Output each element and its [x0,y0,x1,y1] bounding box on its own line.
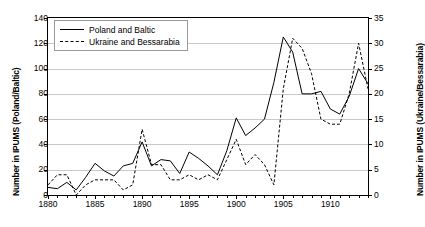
tick-mark [330,196,331,199]
tick-mark [340,196,341,198]
tick-mark [349,196,350,198]
x-axis-tick-label: 1910 [310,199,350,209]
tick-mark [236,196,237,199]
tick-mark [180,196,181,198]
tick-mark [368,196,369,198]
x-axis-tick-label: 1880 [28,199,68,209]
legend-label: Poland and Baltic [89,25,155,35]
tick-mark [152,196,153,198]
tick-mark [283,196,284,199]
tick-mark [369,195,372,196]
legend: Poland and Baltic Ukraine and Bessarabia [54,20,188,51]
tick-mark [321,196,322,198]
tick-mark [95,196,96,199]
series-dashed [48,38,368,195]
tick-mark [369,144,372,145]
tick-mark [302,196,303,198]
tick-mark [312,196,313,198]
y-axis-right-tick-label: 5 [374,164,398,174]
legend-swatch-dashed-icon [60,38,84,46]
tick-mark [133,196,134,198]
y-axis-right-tick-label: 20 [374,88,398,98]
tick-mark [369,94,372,95]
tick-mark [104,196,105,198]
tick-mark [293,196,294,198]
tick-mark [369,43,372,44]
tick-mark [359,196,360,198]
tick-mark [274,196,275,198]
tick-mark [189,196,190,199]
tick-mark [67,196,68,198]
y-axis-right-tick-label: 0 [374,190,398,200]
tick-mark [161,196,162,198]
tick-mark [142,196,143,199]
tick-mark [208,196,209,198]
x-axis-tick-label: 1905 [263,199,303,209]
legend-swatch-solid-icon [60,26,84,34]
x-axis-tick-label: 1890 [122,199,162,209]
tick-mark [48,196,49,199]
y-axis-right-tick-label: 35 [374,13,398,23]
tick-mark [76,196,77,198]
y-axis-right-tick-label: 10 [374,139,398,149]
tick-mark [369,69,372,70]
y-axis-right-tick-label: 30 [374,38,398,48]
tick-mark [255,196,256,198]
x-axis-tick-label: 1895 [169,199,209,209]
tick-mark [199,196,200,198]
tick-mark [123,196,124,198]
tick-mark [217,196,218,198]
tick-mark [369,170,372,171]
tick-mark [264,196,265,198]
y-axis-right-tick-label: 15 [374,114,398,124]
tick-mark [227,196,228,198]
x-axis-tick-label: 1885 [75,199,115,209]
y-axis-right-title: Number in IPUMS (Ukraine/Bessarabia) [415,43,425,196]
legend-item-ukraine-bessarabia: Ukraine and Bessarabia [60,36,182,48]
legend-label: Ukraine and Bessarabia [89,37,180,47]
y-axis-right-tick-label: 25 [374,63,398,73]
y-axis-left-title: Number in IPUMS (Poland/Baltic) [11,67,21,196]
x-axis-tick-label: 1900 [216,199,256,209]
tick-mark [114,196,115,198]
tick-mark [369,119,372,120]
tick-mark [86,196,87,198]
tick-mark [170,196,171,198]
tick-mark [246,196,247,198]
tick-mark [369,18,372,19]
legend-item-poland-baltic: Poland and Baltic [60,24,182,36]
tick-mark [57,196,58,198]
